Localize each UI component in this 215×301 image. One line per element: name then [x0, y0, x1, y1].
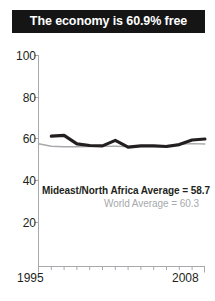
y-tick-label-60: 60 [23, 133, 36, 145]
series-line-mideast-north-africa [51, 135, 205, 147]
chart-svg [0, 36, 215, 301]
annotation-world-average: World Average = 60.3 [104, 199, 199, 209]
x-tick-label-start: 1995 [17, 272, 44, 284]
x-tick-label-end: 2008 [172, 272, 199, 284]
economic-freedom-chart: The economy is 60.9% free [0, 0, 215, 301]
y-tick-label-80: 80 [23, 92, 36, 104]
y-tick-label-100: 100 [16, 50, 36, 62]
plot-area [0, 36, 215, 301]
y-tick-label-20: 20 [23, 217, 36, 229]
annotation-mideast-north-africa-average: Mideast/North Africa Average = 58.7 [42, 186, 210, 196]
y-tick-label-40: 40 [23, 175, 36, 187]
chart-title-bar: The economy is 60.9% free [12, 10, 205, 33]
page-title: The economy is 60.9% free [30, 15, 187, 28]
x-axis-ticks [51, 267, 192, 271]
